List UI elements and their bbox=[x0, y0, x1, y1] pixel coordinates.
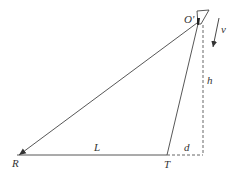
label-point-t: T bbox=[164, 158, 171, 170]
label-length: L bbox=[93, 141, 100, 153]
label-velocity: v bbox=[221, 23, 226, 35]
line-oprime-to-r bbox=[19, 23, 197, 155]
label-o-prime: O' bbox=[184, 13, 195, 25]
line-oprime-to-t bbox=[167, 24, 198, 155]
velocity-arrow bbox=[213, 18, 219, 47]
label-distance: d bbox=[184, 141, 190, 153]
label-height: h bbox=[207, 74, 213, 86]
label-point-r: R bbox=[11, 157, 19, 169]
diagram-canvas: O' v h L d R T bbox=[0, 0, 233, 175]
